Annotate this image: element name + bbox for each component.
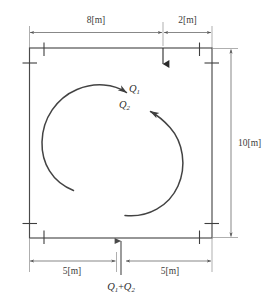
top-dimension-group: 8[m] 2[m] (30, 15, 213, 48)
inlet-arrow-group: Q1+Q2 (107, 241, 135, 293)
dimension-label-8m: 8[m] (87, 15, 105, 25)
dimension-label-5m-right: 5[m] (161, 266, 179, 276)
dimension-label-10m: 10[m] (238, 138, 261, 148)
dimension-label-5m-left: 5[m] (63, 266, 81, 276)
room-outline-group (23, 43, 220, 245)
q1-swirl-arc (42, 85, 127, 191)
dimension-label-2m: 2[m] (178, 15, 196, 25)
q2-flow-group: Q2 (119, 99, 183, 216)
q1-label: Q1 (129, 83, 140, 95)
q2-label: Q2 (119, 99, 131, 111)
q2-swirl-arc (125, 112, 183, 216)
figure-container: 8[m] 2[m] Q1 (0, 0, 279, 304)
right-dimension-group: 10[m] (212, 49, 261, 238)
duct-flow-diagram: 8[m] 2[m] Q1 (0, 0, 279, 304)
room-outline (30, 48, 213, 238)
inlet-label: Q1+Q2 (107, 281, 135, 293)
